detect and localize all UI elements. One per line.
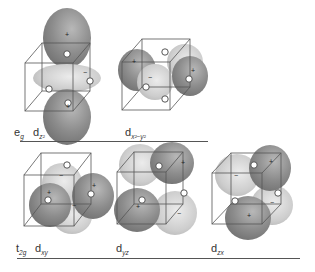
svg-text:+: + xyxy=(269,158,273,165)
svg-text:+: + xyxy=(65,31,69,38)
eg-set-label: eg xyxy=(14,127,24,141)
svg-text:−: − xyxy=(270,199,274,206)
orbital-dxy: + + − − xyxy=(24,153,114,234)
dzx-label: dzx xyxy=(211,243,224,257)
svg-text:−: − xyxy=(148,74,152,81)
dz2-label: dz² xyxy=(33,127,45,141)
svg-text:+: + xyxy=(247,212,251,219)
svg-text:+: + xyxy=(92,182,96,189)
dx2-y2-label: dx²−y² xyxy=(125,127,146,141)
orbital-diagram: + − + + − + xyxy=(0,0,315,272)
svg-text:+: + xyxy=(66,103,70,110)
svg-text:−: − xyxy=(72,202,76,209)
dxy-label: dxy xyxy=(35,243,48,257)
svg-text:−: − xyxy=(83,69,87,76)
t2g-divider xyxy=(17,258,300,259)
svg-text:+: + xyxy=(181,159,185,166)
svg-text:+: + xyxy=(136,203,140,210)
eg-divider xyxy=(20,141,208,142)
svg-text:+: + xyxy=(132,58,136,65)
orbital-dx2-y2: + − + xyxy=(118,39,208,110)
t2g-set-label: t2g xyxy=(16,243,26,257)
svg-text:+: + xyxy=(47,189,51,196)
orbital-dzx: + + − − xyxy=(212,145,293,240)
orbital-dyz: + + − xyxy=(114,142,197,235)
svg-text:+: + xyxy=(191,67,195,74)
svg-text:−: − xyxy=(177,210,181,217)
dyz-label: dyz xyxy=(116,243,129,257)
orbital-dz2: + − + xyxy=(25,8,101,145)
svg-text:−: − xyxy=(234,172,238,179)
svg-text:−: − xyxy=(59,172,63,179)
